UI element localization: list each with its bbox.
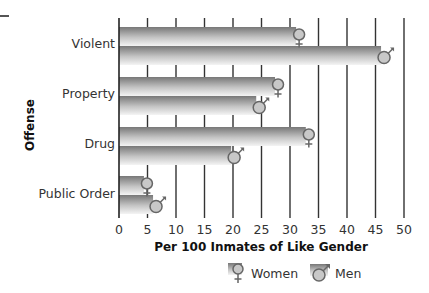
bar-drug-men — [119, 146, 231, 165]
bar-public-order-women — [119, 176, 144, 195]
bar-property-women — [119, 77, 275, 96]
bar-drug-women — [119, 127, 306, 146]
x-axis-title: Per 100 Inmates of Like Gender — [154, 240, 368, 254]
y-axis-title: Offense — [23, 99, 37, 151]
x-tick-25: 25 — [254, 222, 270, 237]
x-tick-10: 10 — [168, 222, 184, 237]
x-tick-15: 15 — [197, 222, 213, 237]
bar-violent-men — [119, 46, 381, 65]
legend: Women Men — [228, 262, 361, 284]
category-label-drug: Drug — [84, 136, 115, 151]
legend-label-men: Men — [335, 266, 361, 281]
legend-label-women: Women — [251, 266, 298, 281]
x-tick-0: 0 — [115, 222, 123, 237]
bar-property-men — [119, 96, 256, 115]
category-label-property: Property — [62, 86, 115, 101]
x-tick-45: 45 — [368, 222, 384, 237]
bars — [119, 27, 381, 214]
x-tick-20: 20 — [225, 222, 241, 237]
male-symbol-icon — [310, 263, 332, 283]
bar-public-order-men — [119, 195, 153, 214]
bar-violent-women — [119, 27, 296, 46]
category-label-violent: Violent — [72, 36, 115, 51]
category-label-public-order: Public Order — [39, 186, 116, 201]
x-tick-40: 40 — [339, 222, 355, 237]
female-symbol-icon — [228, 262, 248, 284]
legend-item-men: Men — [310, 263, 361, 283]
legend-item-women: Women — [228, 262, 298, 284]
x-tick-30: 30 — [282, 222, 298, 237]
x-tick-35: 35 — [311, 222, 327, 237]
x-tick-50: 50 — [396, 222, 412, 237]
x-tick-5: 5 — [144, 222, 152, 237]
